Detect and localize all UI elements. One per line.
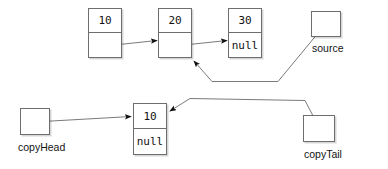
copy-node-1-value: 10 xyxy=(134,104,166,129)
source-node-1-value: 10 xyxy=(89,9,121,33)
source-node-3: 30 null xyxy=(228,8,262,58)
source-node-3-next: null xyxy=(229,33,261,57)
source-node-2-value: 20 xyxy=(159,9,191,33)
source-node-2: 20 xyxy=(158,8,192,58)
source-node-1: 10 xyxy=(88,8,122,58)
copyhead-pointer-label: copyHead xyxy=(18,141,65,153)
source-pointer-box xyxy=(311,11,341,37)
copytail-pointer-label: copyTail xyxy=(304,148,342,160)
source-node-2-next xyxy=(159,33,191,57)
source-node-1-next xyxy=(89,33,121,57)
copytail-pointer-box xyxy=(303,115,335,142)
copy-node-1: 10 null xyxy=(133,103,167,155)
copytail-pointer-wire xyxy=(170,99,322,134)
source-node-3-value: 30 xyxy=(229,9,261,33)
source-pointer-label: source xyxy=(312,42,344,54)
linked-list-diagram: 10 20 30 null source 10 null copyHead co… xyxy=(0,0,388,169)
copyhead-pointer-box xyxy=(20,108,50,135)
copy-node-1-next: null xyxy=(134,129,166,154)
